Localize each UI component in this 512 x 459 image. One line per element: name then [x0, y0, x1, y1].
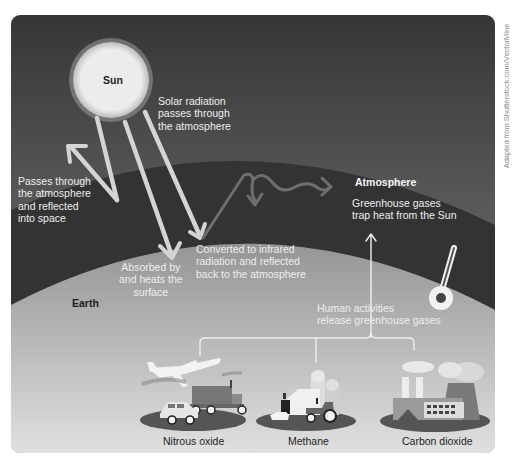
annotation-line: passes through	[158, 107, 231, 119]
annotation-line: and heats the	[119, 273, 183, 285]
annotation-line: Greenhouse gases	[352, 197, 456, 209]
annotation-line: the atmosphere	[18, 187, 91, 199]
solar-radiation-annotation: Solar radiation passes through the atmos…	[158, 95, 231, 132]
annotation-line: release greenhouse gases	[317, 314, 441, 326]
greenhouse-annotation: Greenhouse gases trap heat from the Sun	[352, 197, 456, 222]
greenhouse-diagram-panel: Sun Solar radiation passes through the a…	[11, 15, 495, 453]
source-label-nitrous-oxide: Nitrous oxide	[163, 435, 224, 447]
annotation-line: trap heat from the Sun	[352, 209, 456, 221]
annotation-line: into space	[18, 212, 91, 224]
annotation-line: Human activities	[317, 302, 441, 314]
atmosphere-label: Atmosphere	[355, 176, 416, 188]
human-activities-annotation: Human activities release greenhouse gase…	[317, 302, 441, 327]
annotation-line: surface	[119, 286, 183, 298]
annotation-line: Absorbed by	[119, 261, 183, 273]
annotation-line: and reflected	[18, 200, 91, 212]
absorbed-annotation: Absorbed by and heats the surface	[119, 261, 183, 298]
sun-label: Sun	[103, 74, 123, 86]
annotation-line: back to the atmosphere	[196, 268, 306, 280]
reflected-annotation: Passes through the atmosphere and reflec…	[18, 175, 91, 224]
annotation-line: Solar radiation	[158, 95, 231, 107]
annotation-line: radiation and reflected	[196, 255, 306, 267]
annotation-line: Converted to infrared	[196, 243, 306, 255]
earth-label: Earth	[72, 297, 99, 309]
annotation-line: the atmosphere	[158, 120, 231, 132]
converted-annotation: Converted to infrared radiation and refl…	[196, 243, 306, 280]
source-label-carbon-dioxide: Carbon dioxide	[402, 435, 473, 447]
annotation-line: Passes through	[18, 175, 91, 187]
source-label-methane: Methane	[288, 435, 329, 447]
image-credit: Adapted from Shutterstock.com/VectorMine	[502, 24, 511, 169]
